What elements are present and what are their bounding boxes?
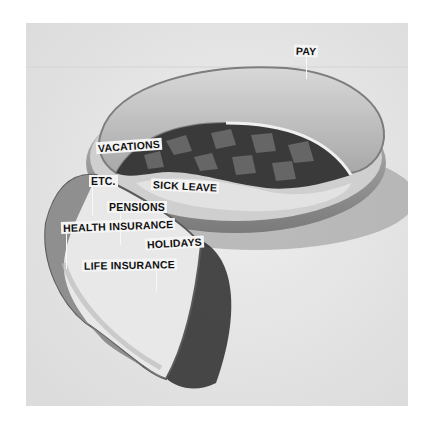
label-life-insurance: LIFE INSURANCE — [82, 258, 177, 272]
label-etc: ETC. — [89, 175, 118, 187]
pie-illustration — [26, 23, 408, 406]
flag-pole-etc — [92, 186, 93, 216]
label-pay: PAY — [294, 45, 319, 58]
flag-pole-health-insurance — [66, 233, 67, 269]
flag-pole-life-insurance — [156, 271, 157, 291]
flag-pole-pay — [306, 57, 307, 79]
pie-photograph — [26, 23, 408, 406]
label-pensions: PENSIONS — [107, 201, 167, 213]
